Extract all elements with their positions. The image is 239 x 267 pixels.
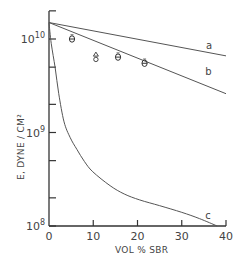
y-tick-label: 108 <box>26 218 45 233</box>
curve-c <box>49 23 217 226</box>
axes <box>49 11 226 226</box>
y-tick-label: 1010 <box>21 31 45 46</box>
y-ticks: 1081091010 <box>21 11 56 233</box>
curve-label-b: b <box>205 66 211 77</box>
x-axis-title: VOL % SBR <box>115 245 168 255</box>
theta-marker <box>115 53 120 60</box>
y-tick-label: 109 <box>26 125 45 140</box>
y-axis-title: E, DYNE / CM² <box>16 114 26 180</box>
series-group: abc <box>49 23 226 226</box>
x-tick-label: 10 <box>86 230 100 243</box>
theta-marker <box>69 35 74 42</box>
data-markers <box>69 35 147 67</box>
curve-a <box>49 23 226 56</box>
theta-marker <box>142 59 147 66</box>
x-ticks: 010203040 <box>46 220 234 243</box>
modulus-vs-sbr-chart: 1081091010 010203040 abc E, DYNE / CM² V… <box>0 0 239 267</box>
curve-label-c: c <box>205 210 211 221</box>
x-tick-label: 30 <box>175 230 189 243</box>
x-tick-label: 40 <box>219 230 233 243</box>
triangle-circle-marker <box>93 52 98 62</box>
x-tick-label: 0 <box>46 230 53 243</box>
curve-b <box>49 23 226 94</box>
x-tick-label: 20 <box>131 230 145 243</box>
curve-label-a: a <box>206 40 212 51</box>
